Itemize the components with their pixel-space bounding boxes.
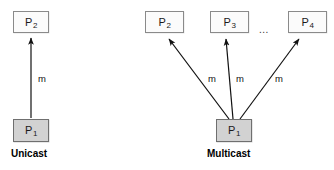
multicast-caption: Multicast	[207, 149, 250, 159]
multicast-receiver-index-p2: 2	[166, 21, 170, 30]
multicast-sender-index: 1	[236, 129, 240, 138]
unicast-receiver-name: P	[25, 16, 32, 28]
multicast-message-label-p3: m	[236, 74, 244, 84]
unicast-receiver-label: P2	[25, 17, 37, 28]
multicast-sender-name: P	[228, 124, 235, 136]
unicast-sender-node-p1: P1	[13, 119, 49, 142]
unicast-receiver-index: 2	[33, 21, 37, 30]
multicast-receiver-name-p4: P	[302, 16, 309, 28]
unicast-caption: Unicast	[11, 149, 47, 159]
multicast-receiver-label-p3: P3	[224, 17, 236, 28]
multicast-ellipsis: ...	[259, 25, 269, 35]
multicast-arrow-p1-to-p4	[240, 39, 299, 119]
multicast-message-label-p4: m	[275, 74, 283, 84]
multicast-receiver-node-p3: P3	[210, 11, 249, 33]
multicast-arrow-p1-to-p3	[226, 39, 233, 119]
multicast-message-label-p2: m	[208, 74, 216, 84]
multicast-arrow-p1-to-p2	[169, 39, 229, 119]
multicast-receiver-index-p4: 4	[309, 21, 313, 30]
unicast-sender-index: 1	[33, 129, 37, 138]
unicast-sender-name: P	[25, 124, 32, 136]
unicast-message-label: m	[38, 74, 46, 84]
multicast-sender-node-p1: P1	[216, 119, 252, 142]
multicast-sender-label: P1	[228, 125, 240, 136]
multicast-receiver-index-p3: 3	[231, 21, 235, 30]
multicast-receiver-label-p2: P2	[159, 17, 171, 28]
diagram-canvas: P2 m P1 Unicast P2 P3 ... P4 m m m P1 Mu…	[0, 0, 334, 170]
multicast-receiver-node-p4: P4	[288, 11, 327, 33]
multicast-receiver-node-p2: P2	[145, 11, 184, 33]
multicast-receiver-label-p4: P4	[302, 17, 314, 28]
unicast-sender-label: P1	[25, 125, 37, 136]
multicast-receiver-name-p2: P	[159, 16, 166, 28]
unicast-receiver-node-p2: P2	[13, 11, 49, 33]
multicast-receiver-name-p3: P	[224, 16, 231, 28]
